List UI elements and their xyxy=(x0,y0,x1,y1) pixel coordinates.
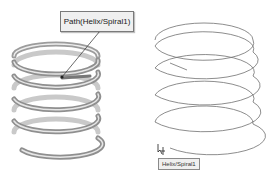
path-callout-label: Path(Helix/Spiral1) xyxy=(60,11,134,32)
select-curve-cursor-icon xyxy=(158,144,165,155)
callout-anchor-dot xyxy=(60,75,63,78)
graphics-viewport[interactable]: Path(Helix/Spiral1) Helix/Spiral1 xyxy=(0,0,269,180)
swept-spring-solid[interactable] xyxy=(0,0,269,180)
helix-tooltip: Helix/Spiral1 xyxy=(158,158,200,170)
helix-curve xyxy=(155,23,266,155)
